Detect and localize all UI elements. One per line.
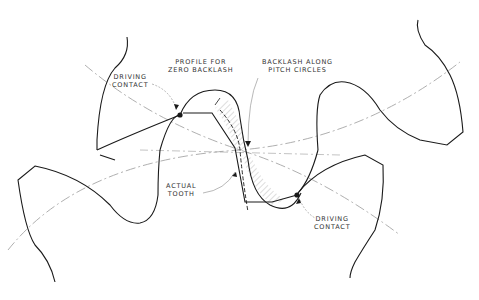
lower-left-gear-top: [100, 155, 115, 160]
leader-backlash-pitch: [248, 78, 258, 145]
upper-right-gear-outline: [317, 20, 463, 150]
label-actual-tooth: ACTUAL TOOTH: [166, 182, 196, 198]
label-driving-contact-bottom: DRIVING CONTACT: [314, 215, 350, 231]
leader-zero-backlash: [215, 98, 220, 105]
label-backlash-pitch-circles: BACKLASH ALONG PITCH CIRCLES: [262, 58, 333, 74]
driving-contact-point-bottom: [294, 192, 299, 197]
label-driving-contact-top: DRIVING CONTACT: [112, 73, 148, 89]
gear-backlash-diagram: [0, 0, 479, 300]
label-profile-zero-backlash: PROFILE FOR ZERO BACKLASH: [168, 58, 233, 74]
lower-gear-pitch-circle: [8, 62, 460, 250]
arrowhead-icon: [245, 141, 251, 147]
arrowhead-icon: [174, 104, 179, 110]
upper-right-gear-flank: [298, 150, 318, 193]
leader-driving-contact-bottom: [300, 200, 315, 218]
leader-driving-contact-top: [152, 84, 176, 108]
upper-left-gear-tooth-flank: [97, 115, 180, 150]
leader-actual-tooth: [203, 172, 235, 193]
lower-left-gear-outline: [18, 150, 160, 282]
driving-contact-point-top: [177, 112, 182, 117]
upper-left-gear-outline: [97, 37, 128, 150]
